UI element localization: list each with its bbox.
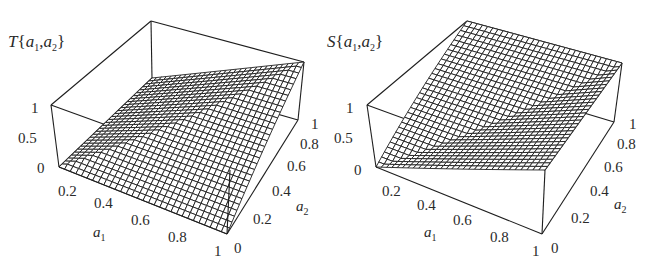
box-edge-top-back: [151, 21, 304, 62]
left-a2-tick: 0.8: [300, 137, 319, 152]
right-a1-tick: 0.4: [417, 198, 436, 213]
left-z-tick-0: 0: [37, 161, 45, 176]
right-z-tick-0.5: 0.5: [334, 131, 353, 146]
right-a2-tick: 0.8: [617, 137, 636, 152]
right-a1-tick: 0.2: [382, 184, 401, 199]
right-a2-tick: 0.6: [604, 160, 623, 175]
left-a2-axis-label: a2: [296, 199, 309, 214]
right-z-tick-1: 1: [346, 101, 354, 116]
left-a1-tick: 0.8: [168, 230, 187, 245]
left-a1-tick: 1: [214, 244, 222, 259]
left-z-tick-1: 1: [31, 101, 39, 116]
box-edge-back-vertical: [151, 21, 152, 78]
left-a1-tick: 0.6: [131, 213, 150, 228]
box-edge-top-left: [51, 21, 151, 105]
box-edge-front-vertical: [542, 170, 545, 234]
left-a2-tick: 0: [234, 241, 242, 256]
right-z-tick-0: 0: [354, 163, 362, 178]
left-surface-plot: [51, 21, 304, 234]
right-a2-tick: 0.4: [590, 184, 609, 199]
left-z-tick-0.5: 0.5: [18, 131, 37, 146]
box-edge-left-vertical: [367, 105, 376, 167]
right-a2-axis-label: a2: [614, 197, 627, 212]
right-a1-tick: 1: [532, 244, 540, 259]
left-a1-tick: 0.2: [58, 184, 77, 199]
left-a2-tick: 1: [311, 117, 319, 132]
right-a1-axis-label: a1: [424, 225, 437, 240]
right-plot-title: S{a1,a2}: [327, 33, 383, 50]
right-a2-tick: 0.2: [571, 211, 590, 226]
left-a2-tick: 0.4: [272, 184, 291, 199]
right-surface-plot: [367, 21, 622, 234]
right-a1-tick: 0.8: [490, 230, 509, 245]
left-a1-axis-label: a1: [93, 225, 106, 240]
left-a1-tick: 0.4: [94, 196, 113, 211]
left-plot-title: T{a1,a2}: [8, 33, 65, 50]
left-a2-tick: 0.2: [253, 212, 272, 227]
right-a1-tick: 0.6: [453, 213, 472, 228]
left-a2-tick: 0.6: [287, 159, 306, 174]
right-a2-tick: 0: [551, 241, 559, 256]
box-edge-left-vertical: [51, 105, 59, 167]
right-a2-tick: 1: [629, 117, 637, 132]
